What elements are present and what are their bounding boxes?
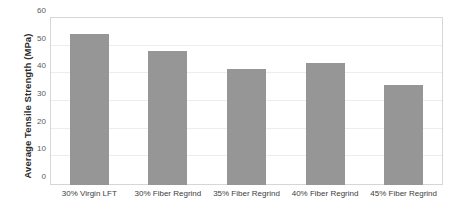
x-axis-tick-label: 30% Virgin LFT [50, 188, 129, 204]
y-axis-tick-label: 20 [4, 116, 46, 125]
bar-slot [364, 17, 443, 185]
y-axis-tick-label: 10 [4, 144, 46, 153]
x-axis-tick-label: 40% Fiber Regrind [286, 188, 365, 204]
bar [384, 85, 423, 185]
bar [70, 34, 109, 185]
x-axis-tick-label: 35% Fiber Regrind [207, 188, 286, 204]
y-axis-tick-label: 0 [4, 172, 46, 181]
bar-slot [129, 17, 208, 185]
bar-chart: Average Tensile Strength (MPa) 010203040… [0, 0, 462, 212]
bar-slot [207, 17, 286, 185]
bar [148, 51, 187, 185]
y-axis-tick-label: 50 [4, 33, 46, 42]
bar [306, 63, 345, 185]
bar [227, 69, 266, 185]
bar-slot [286, 17, 365, 185]
x-axis-tick-labels: 30% Virgin LFT30% Fiber Regrind35% Fiber… [50, 188, 443, 204]
y-axis-tick-labels: 0102030405060 [0, 17, 46, 185]
y-axis-tick-label: 30 [4, 89, 46, 98]
x-axis-tick-label: 30% Fiber Regrind [129, 188, 208, 204]
y-axis-tick-label: 40 [4, 61, 46, 70]
bars-layer [50, 17, 443, 185]
y-axis-tick-label: 60 [4, 6, 46, 15]
bar-slot [50, 17, 129, 185]
x-axis-tick-label: 45% Fiber Regrind [364, 188, 443, 204]
